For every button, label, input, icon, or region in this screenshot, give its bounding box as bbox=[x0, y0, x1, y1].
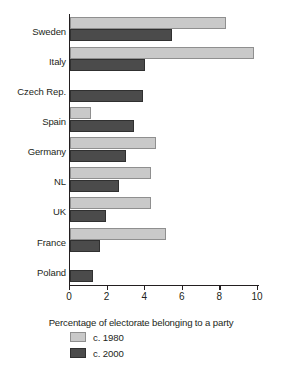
bar-nl-2000 bbox=[70, 180, 119, 192]
chart-legend: c. 1980 c. 2000 bbox=[70, 330, 124, 362]
x-tick-label-4: 4 bbox=[132, 291, 156, 303]
legend-label-2000: c. 2000 bbox=[93, 348, 124, 359]
category-label-sweden: Sweden bbox=[0, 26, 66, 37]
bar-germany-1980 bbox=[70, 137, 156, 149]
category-label-poland: Poland bbox=[0, 267, 66, 278]
bar-sweden-1980 bbox=[70, 17, 226, 29]
x-axis-title: Percentage of electorate belonging to a … bbox=[0, 317, 282, 328]
bar-poland-2000 bbox=[70, 270, 93, 282]
bar-france-1980 bbox=[70, 228, 166, 240]
x-tick-0 bbox=[69, 286, 70, 290]
bar-france-2000 bbox=[70, 240, 100, 252]
bar-nl-1980 bbox=[70, 167, 151, 179]
x-tick-6 bbox=[182, 286, 183, 290]
plot-area: SwedenItalyCzech Rep.SpainGermanyNLUKFra… bbox=[0, 14, 282, 286]
bars-container bbox=[70, 14, 282, 285]
bar-uk-1980 bbox=[70, 197, 151, 209]
legend-item-1980: c. 1980 bbox=[70, 330, 124, 344]
x-tick-label-8: 8 bbox=[207, 291, 231, 303]
legend-item-2000: c. 2000 bbox=[70, 346, 124, 360]
x-axis-line bbox=[69, 285, 259, 286]
bar-sweden-2000 bbox=[70, 29, 172, 41]
legend-label-1980: c. 1980 bbox=[93, 332, 124, 343]
bar-germany-2000 bbox=[70, 150, 126, 162]
x-tick-label-0: 0 bbox=[57, 291, 81, 303]
x-tick-2 bbox=[107, 286, 108, 290]
category-label-france: France bbox=[0, 237, 66, 248]
category-label-spain: Spain bbox=[0, 116, 66, 127]
category-label-czech-rep: Czech Rep. bbox=[0, 86, 66, 97]
legend-swatch-1980 bbox=[70, 332, 86, 342]
bar-spain-2000 bbox=[70, 120, 134, 132]
legend-swatch-2000 bbox=[70, 348, 86, 358]
x-tick-label-6: 6 bbox=[170, 291, 194, 303]
x-tick-8 bbox=[219, 286, 220, 290]
bar-italy-1980 bbox=[70, 47, 254, 59]
bar-spain-1980 bbox=[70, 107, 91, 119]
x-tick-10 bbox=[257, 286, 258, 290]
bar-uk-2000 bbox=[70, 210, 106, 222]
x-tick-label-10: 10 bbox=[245, 291, 269, 303]
x-tick-4 bbox=[144, 286, 145, 290]
bar-czech-rep-2000 bbox=[70, 90, 143, 102]
category-label-germany: Germany bbox=[0, 146, 66, 157]
x-tick-label-2: 2 bbox=[95, 291, 119, 303]
bar-chart: SwedenItalyCzech Rep.SpainGermanyNLUKFra… bbox=[0, 0, 282, 371]
category-axis-labels: SwedenItalyCzech Rep.SpainGermanyNLUKFra… bbox=[0, 14, 66, 285]
category-label-uk: UK bbox=[0, 206, 66, 217]
category-label-italy: Italy bbox=[0, 56, 66, 67]
bar-italy-2000 bbox=[70, 59, 145, 71]
category-label-nl: NL bbox=[0, 176, 66, 187]
